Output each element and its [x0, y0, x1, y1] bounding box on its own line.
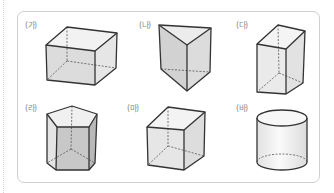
- figure-ma-cube: [147, 107, 205, 170]
- figure-da-tall-prism: [257, 25, 305, 94]
- figures-canvas: [0, 0, 334, 193]
- figure-ga-rectangular-prism: [46, 27, 117, 85]
- figure-ba-cylinder: [257, 110, 307, 170]
- figure-ra-pentagonal-prism: [47, 106, 97, 170]
- figure-na-triangular-prism: [159, 25, 211, 91]
